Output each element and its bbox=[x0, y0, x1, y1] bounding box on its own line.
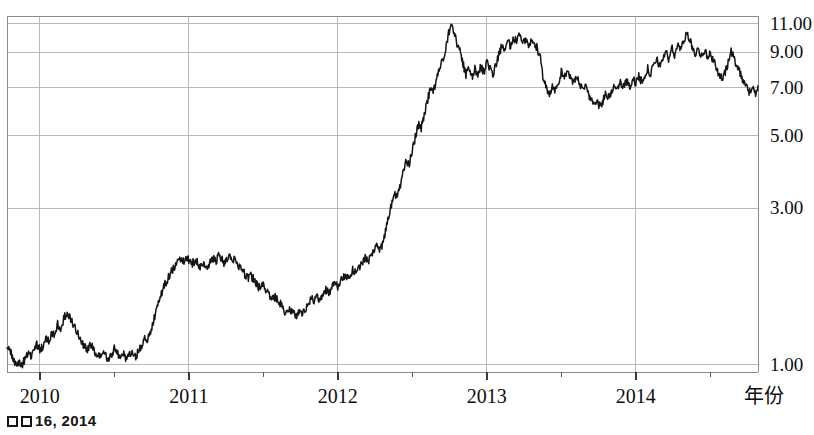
missing-glyph-box-icon bbox=[7, 416, 18, 427]
chart-plot-area bbox=[0, 0, 814, 435]
stock-price-chart-figure: 11.009.007.005.003.001.00 20102011201220… bbox=[0, 0, 814, 435]
x-axis-title: 年份 bbox=[744, 386, 784, 406]
y-tick-label: 3.00 bbox=[770, 198, 803, 217]
y-tick-label: 5.00 bbox=[770, 126, 803, 145]
figure-caption: 16, 2014 bbox=[7, 412, 97, 429]
x-tick-label: 2013 bbox=[467, 386, 507, 406]
y-tick-label: 9.00 bbox=[770, 42, 803, 61]
x-tick-label: 2012 bbox=[318, 386, 358, 406]
axis-ticks-group bbox=[40, 372, 711, 380]
figure-caption-text: 16, 2014 bbox=[35, 412, 97, 429]
x-tick-label: 2011 bbox=[169, 386, 208, 406]
x-tick-label: 2010 bbox=[20, 386, 60, 406]
x-tick-label: 2014 bbox=[616, 386, 656, 406]
missing-glyph-box-icon bbox=[21, 416, 32, 427]
gridlines-group bbox=[7, 16, 758, 372]
price-line-price bbox=[7, 24, 758, 367]
data-series-group bbox=[7, 24, 758, 367]
y-tick-label: 1.00 bbox=[770, 355, 803, 374]
y-tick-label: 11.00 bbox=[770, 14, 812, 33]
y-tick-label: 7.00 bbox=[770, 78, 803, 97]
plot-frame bbox=[7, 16, 758, 372]
